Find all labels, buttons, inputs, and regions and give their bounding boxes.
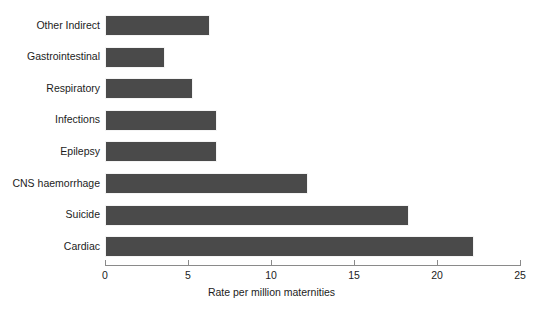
x-axis-tick: [271, 260, 272, 266]
x-axis-tick-label: 15: [348, 269, 360, 281]
x-axis-tick: [105, 260, 106, 266]
bar: [105, 110, 217, 131]
x-axis-tick-label: 10: [265, 269, 277, 281]
x-axis-tick: [437, 260, 438, 266]
y-axis-tick-label: Cardiac: [0, 240, 100, 252]
bar: [105, 78, 193, 99]
bar: [105, 205, 409, 226]
y-axis-tick-label: Infections: [0, 113, 100, 125]
x-axis-tick-label: 25: [514, 269, 526, 281]
x-axis-tick-label: 20: [431, 269, 443, 281]
x-axis-tick-label: 0: [102, 269, 108, 281]
y-axis-tick-label: Other Indirect: [0, 19, 100, 31]
x-axis-tick-label: 5: [185, 269, 191, 281]
y-axis-tick-label: Suicide: [0, 208, 100, 220]
x-axis-line: [105, 265, 521, 266]
bar: [105, 173, 308, 194]
x-axis-tick: [520, 260, 521, 266]
y-axis-tick-label: Epilepsy: [0, 145, 100, 157]
x-axis-tick: [188, 260, 189, 266]
y-axis-tick-label: Respiratory: [0, 82, 100, 94]
plot-area: [105, 12, 520, 265]
bar-chart: Other IndirectGastrointestinalRespirator…: [0, 0, 543, 312]
y-axis-category-labels: Other IndirectGastrointestinalRespirator…: [0, 12, 100, 265]
y-axis-tick-label: CNS haemorrhage: [0, 177, 100, 189]
x-axis-title: Rate per million maternities: [0, 286, 543, 298]
bar: [105, 15, 210, 36]
bar: [105, 141, 217, 162]
bar: [105, 47, 165, 68]
bar: [105, 236, 474, 257]
x-axis-tick: [354, 260, 355, 266]
y-axis-tick-label: Gastrointestinal: [0, 50, 100, 62]
